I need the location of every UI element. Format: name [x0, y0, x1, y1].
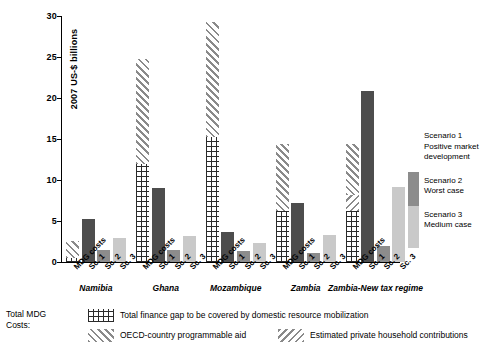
y-tick-label: 20 [47, 93, 57, 103]
y-tick-label: 10 [47, 175, 57, 185]
bar-scenario [361, 91, 374, 262]
bar-segment-forward-diagonal [66, 241, 79, 258]
pattern-legend-swatch-grid [88, 309, 114, 322]
bar-mdg-costs [346, 144, 359, 262]
bar-mdg-costs [136, 59, 149, 262]
group-label: Zambia-New tax regime [328, 283, 423, 293]
scenario-legend-swatch [408, 206, 419, 248]
pattern-legend-label: OECD-country programmable aid [120, 330, 246, 340]
scenario-legend-title: Scenario 2 [424, 176, 499, 187]
pattern-legend-label: Total finance gap to be covered by domes… [120, 310, 369, 320]
bar-segment-grid [276, 211, 289, 262]
scenario-legend-desc: Medium case [424, 220, 499, 231]
group-label: Ghana [153, 283, 179, 293]
y-tick-label: 25 [47, 52, 57, 62]
bar-segment-backward-diagonal [346, 195, 359, 211]
group-label: Zambia [291, 283, 321, 293]
scenario-legend: Scenario 1Positive market developmentSce… [424, 131, 499, 244]
scenario-legend-entry: Scenario 1Positive market development [424, 131, 499, 163]
pattern-legend-swatch-forward-diagonal [88, 329, 114, 342]
scenario-legend-entry: Scenario 3Medium case [424, 210, 499, 231]
pattern-legend-title-line1: Total MDG [6, 309, 46, 320]
bar-segment-grid [206, 137, 219, 262]
pattern-legend-swatch-backward-diagonal [278, 329, 304, 342]
pattern-legend-title: Total MDG Costs: [6, 309, 46, 331]
y-tick-label: 30 [47, 11, 57, 21]
bar-mdg-costs [206, 22, 219, 262]
y-axis-ticks: 051015202530 [0, 0, 57, 263]
bar-segment-forward-diagonal [276, 144, 289, 211]
scenario-legend-desc: Worst case [424, 186, 499, 197]
plot-area [62, 16, 399, 262]
bar-segment-forward-diagonal [206, 22, 219, 138]
scenario-legend-entry: Scenario 2Worst case [424, 176, 499, 197]
bar-scenario [392, 187, 405, 262]
group-label: Namibia [79, 283, 112, 293]
scenario-legend-desc: Positive market development [424, 142, 499, 163]
scenario-legend-title: Scenario 1 [424, 131, 499, 142]
scenario-legend-title: Scenario 3 [424, 210, 499, 221]
pattern-legend-label: Estimated private household contribution… [310, 330, 468, 340]
pattern-legend-title-line2: Costs: [6, 320, 46, 331]
group-label: Mozambique [210, 283, 261, 293]
bar-mdg-costs [276, 144, 289, 262]
pattern-legend: Total MDG Costs: Total finance gap to be… [0, 305, 499, 357]
y-tick-label: 15 [47, 134, 57, 144]
bar-segment-grid [136, 164, 149, 262]
bar-segment-forward-diagonal [136, 59, 149, 164]
bar-segment-grid [346, 211, 359, 262]
bar-segment-forward-diagonal [346, 144, 359, 195]
